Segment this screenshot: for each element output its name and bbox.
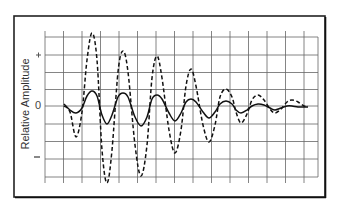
chart-frame	[14, 16, 325, 197]
y-axis-label: Relative Amplitude	[19, 49, 31, 159]
chart-canvas	[0, 0, 339, 210]
grid-lines	[45, 31, 318, 183]
y-tick-zero-label: 0	[35, 99, 41, 111]
